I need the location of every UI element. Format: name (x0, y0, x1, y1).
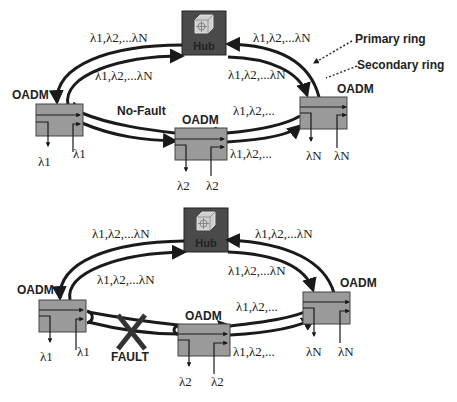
add-wavelength-label: λ1 (77, 344, 90, 359)
add-wavelength-label: λ2 (206, 178, 219, 193)
oadm-node-middle: OADM λ2 λ2 (178, 309, 230, 389)
oadm-label: OADM (340, 276, 377, 290)
drop-wavelength-label: λN (306, 344, 322, 359)
primary-ring-pointer (314, 41, 352, 63)
hub-node: Hub (184, 208, 228, 252)
wavelength-label: λ1,λ2,... (230, 146, 272, 161)
hub-node: Hub (182, 11, 226, 55)
loopback-left (87, 311, 92, 323)
drop-wavelength-label: λ2 (179, 374, 192, 389)
wavelength-label: λ1,λ2,...λN (92, 226, 150, 241)
drop-wavelength-label: λ2 (177, 178, 190, 193)
oadm-label: OADM (185, 309, 222, 323)
no-fault-diagram: Hub OADM λ1 λ1 OADM λ2 (12, 11, 444, 193)
oadm-label: OADM (17, 283, 54, 297)
add-wavelength-label: λN (338, 344, 354, 359)
oadm-node-right: OADM λN λN (300, 82, 374, 163)
wavelength-label: λ1,λ2,...λN (228, 67, 286, 82)
wavelength-label: λ1,λ2,...λN (255, 226, 313, 241)
oadm-node-left: OADM λ1 λ1 (17, 283, 90, 364)
wavelength-label: λ1,λ2,... (233, 103, 275, 118)
hub-label: Hub (193, 40, 215, 52)
fault-label: FAULT (111, 350, 149, 364)
add-wavelength-label: λN (334, 148, 350, 163)
wavelength-label: λ1,λ2,... (236, 299, 278, 314)
primary-ring-left (60, 241, 184, 298)
legend-primary-ring: Primary ring (355, 32, 426, 46)
add-wavelength-label: λ2 (211, 374, 224, 389)
wavelength-label: λ1,λ2,...λN (95, 68, 153, 83)
wavelength-label: λ1,λ2,... (233, 344, 275, 359)
wavelength-label: λ1,λ2,...λN (90, 30, 148, 45)
drop-wavelength-label: λ1 (38, 154, 51, 169)
oadm-label: OADM (337, 82, 374, 96)
fault-diagram: Hub FAULT OADM λ1 λ1 (17, 208, 377, 389)
wavelength-label: λ1,λ2,...λN (253, 30, 311, 45)
legend-secondary-ring: Secondary ring (357, 58, 444, 72)
status-label: No-Fault (117, 104, 166, 118)
wavelength-label: λ1,λ2,...λN (228, 263, 286, 278)
oadm-label: OADM (12, 88, 49, 102)
secondary-ring-pointer (326, 66, 357, 78)
oadm-node-middle: OADM λ2 λ2 (175, 113, 227, 193)
add-wavelength-label: λ1 (73, 146, 86, 161)
oadm-node-left: OADM λ1 λ1 (12, 88, 86, 169)
primary-ring-bottom-right (227, 116, 300, 133)
hub-label: Hub (195, 237, 217, 249)
primary-ring-bottom-left (88, 312, 178, 325)
drop-wavelength-label: λN (306, 148, 322, 163)
wavelength-label: λ1,λ2,...λN (97, 272, 155, 287)
drop-wavelength-label: λ1 (40, 349, 53, 364)
oadm-label: OADM (182, 113, 219, 127)
ring-network-diagram: Hub OADM λ1 λ1 OADM λ2 (0, 0, 457, 402)
